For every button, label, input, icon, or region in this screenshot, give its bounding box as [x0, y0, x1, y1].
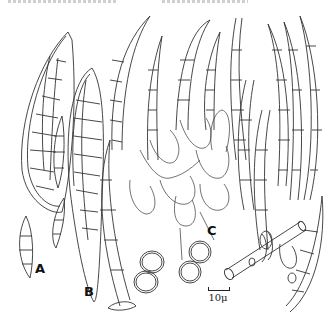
free-spore	[53, 116, 65, 188]
label-a: A	[35, 262, 45, 275]
scale-bar: 10μ	[208, 287, 228, 303]
broken-hypha	[223, 220, 308, 283]
free-spore	[53, 198, 65, 248]
long-spore-lower-left	[100, 140, 136, 310]
curved-spore-right	[286, 196, 323, 312]
two-celled-spore-2	[179, 241, 211, 283]
ascus-with-spores-2	[68, 68, 103, 302]
free-spore-A	[19, 216, 33, 278]
label-b: B	[84, 285, 94, 298]
long-spores-center	[110, 16, 246, 160]
scale-bar-line	[208, 287, 230, 291]
label-c: C	[207, 224, 217, 237]
scale-bar-label: 10μ	[205, 292, 231, 303]
long-spores-right	[238, 16, 322, 250]
two-celled-spore-1	[134, 251, 164, 293]
ascus-with-spores-1	[22, 32, 75, 212]
illustration	[0, 0, 336, 327]
